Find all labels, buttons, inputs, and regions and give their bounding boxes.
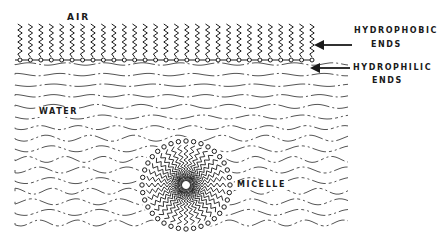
hydrophilic-head <box>91 58 95 62</box>
hydrophilic-head <box>28 58 32 62</box>
micelle-head <box>222 205 226 209</box>
hydrophilic-head <box>216 58 220 62</box>
water-line <box>15 84 348 86</box>
micelle-head <box>169 224 173 228</box>
micelle-head <box>162 221 166 225</box>
hydrophobic-tail <box>289 24 293 57</box>
micelle-head <box>141 190 145 194</box>
micelle-head <box>141 175 145 179</box>
hydrophilic-head <box>227 58 231 62</box>
hydrophilic-head <box>289 58 293 62</box>
hydrophilic-head <box>237 58 241 62</box>
hydrophilic-label-line2: ENDS <box>372 76 403 86</box>
hydrophilic-head <box>185 58 189 62</box>
hydrophilic-head <box>49 58 53 62</box>
hydrophobic-tail <box>80 24 84 57</box>
micelle-head <box>225 168 229 172</box>
hydrophobic-tail <box>18 24 22 57</box>
hydrophobic-tail <box>258 24 262 57</box>
micelle-label: MICELLE <box>235 180 288 190</box>
hydrophilic-head <box>258 58 262 62</box>
micelle-head <box>222 161 226 165</box>
micelle-head <box>225 198 229 202</box>
hydrophobic-tail <box>247 24 251 57</box>
micelle-head <box>212 149 216 153</box>
micelle-head <box>146 161 150 165</box>
hydrophobic-tail <box>226 24 230 57</box>
hydrophilic-head <box>81 58 85 62</box>
hydrophilic-head <box>206 58 210 62</box>
micelle-head <box>199 224 203 228</box>
hydrophobic-tail <box>122 24 126 57</box>
hydrophobic-tail <box>49 24 53 57</box>
micelle-head <box>191 140 195 144</box>
hydrophobic-tail <box>60 24 64 57</box>
micelle-head <box>227 175 231 179</box>
hydrophobic-tail <box>268 24 272 57</box>
micelle-head <box>176 140 180 144</box>
micelle-head <box>169 142 173 146</box>
micelle-head <box>218 211 222 215</box>
water-line <box>15 126 348 130</box>
hydrophobic-tail <box>164 24 168 57</box>
water-label: WATER <box>38 107 79 117</box>
water-line <box>15 63 348 65</box>
hydrophilic-head <box>112 58 116 62</box>
micelle-head <box>212 217 216 221</box>
hydrophobic-tail <box>28 24 32 57</box>
hydrophobic-tail <box>216 24 220 57</box>
water-line <box>15 95 348 97</box>
hydrophobic-tail <box>153 24 157 57</box>
hydrophilic-head <box>195 58 199 62</box>
micelle-head <box>156 149 160 153</box>
hydrophobic-arrow-head <box>314 40 324 50</box>
hydrophilic-head <box>70 58 74 62</box>
hydrophobic-tail <box>39 24 43 57</box>
hydrophobic-tail <box>279 24 283 57</box>
hydrophobic-tail <box>185 24 189 57</box>
hydrophilic-head <box>174 58 178 62</box>
micelle-head <box>143 198 147 202</box>
micelle-head <box>206 145 210 149</box>
surface-monolayer <box>18 24 314 62</box>
micelle-head <box>176 226 180 230</box>
micelle-head <box>156 217 160 221</box>
hydrophobic-tail <box>91 24 95 57</box>
hydrophobic-tail <box>112 24 116 57</box>
hydrophilic-head <box>247 58 251 62</box>
micelle-head <box>146 205 150 209</box>
micelle-head <box>162 145 166 149</box>
hydrophilic-head <box>279 58 283 62</box>
hydrophilic-arrow-head <box>310 63 320 73</box>
micelle-head <box>184 227 188 231</box>
hydrophobic-tail <box>143 24 147 57</box>
hydrophilic-head <box>143 58 147 62</box>
micelle-head <box>143 168 147 172</box>
micelle-head <box>199 142 203 146</box>
micelle-head <box>150 155 154 159</box>
hydrophilic-head <box>39 58 43 62</box>
hydrophobic-label-line1: HYDROPHOBIC <box>354 26 438 36</box>
hydrophobic-tail <box>174 24 178 57</box>
hydrophilic-label-line1: HYDROPHILIC <box>353 63 432 73</box>
micelle-head <box>191 226 195 230</box>
micelle-head <box>140 183 144 187</box>
micelle-head <box>150 211 154 215</box>
air-label: AIR <box>67 12 90 22</box>
hydrophilic-head <box>268 58 272 62</box>
hydrophilic-head <box>101 58 105 62</box>
micelle-head <box>184 139 188 143</box>
label-arrows <box>310 40 352 73</box>
micelle-head <box>228 183 232 187</box>
hydrophilic-head <box>122 58 126 62</box>
hydrophobic-tail <box>133 24 137 57</box>
hydrophobic-tail <box>101 24 105 57</box>
hydrophobic-tail <box>310 24 314 57</box>
hydrophobic-tail <box>206 24 210 57</box>
hydrophilic-head <box>300 58 304 62</box>
micelle-illustration <box>138 137 234 233</box>
hydrophobic-label-line2: ENDS <box>371 40 402 50</box>
hydrophilic-head <box>154 58 158 62</box>
hydrophilic-head <box>164 58 168 62</box>
